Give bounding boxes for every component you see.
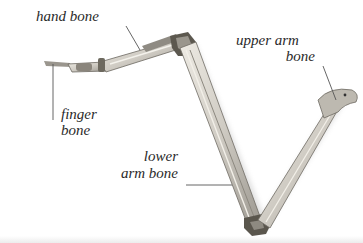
label-finger-bone-line2: bone (61, 122, 90, 138)
label-lower-arm-bone-line1: lower (120, 148, 178, 164)
hand-bone-leader (126, 26, 140, 50)
label-upper-arm-bone-line1: upper arm (236, 32, 299, 48)
label-finger-bone-line1: finger (61, 106, 97, 122)
wing-bone-diagram: hand bone finger bone upper arm bone low… (0, 0, 363, 243)
hand-bone (98, 34, 182, 72)
label-hand-bone: hand bone (36, 8, 99, 24)
lower-arm-bone (180, 42, 262, 226)
bottom-edge (0, 236, 363, 243)
upper-arm-bone (258, 89, 357, 228)
label-lower-arm-bone-line2: arm bone (100, 165, 178, 181)
label-upper-arm-bone-line2: bone (270, 48, 315, 64)
bone-illustration (0, 0, 363, 243)
